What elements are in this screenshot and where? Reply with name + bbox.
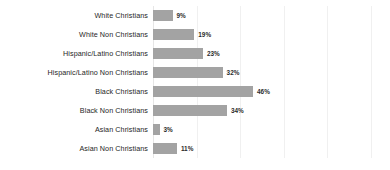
bar xyxy=(153,67,223,78)
bar-row: Hispanic/Latino Non Christians32% xyxy=(0,63,390,82)
bar-row: Asian Non Christians11% xyxy=(0,139,390,158)
bar-value-label: 9% xyxy=(177,12,186,20)
bar-value-label: 3% xyxy=(164,126,173,134)
category-label: White Christians xyxy=(0,11,148,20)
bar xyxy=(153,124,160,135)
bar-track: 3% xyxy=(153,124,390,135)
bar-chart: White Christians9%White Non Christians19… xyxy=(0,0,390,170)
bar-track: 32% xyxy=(153,67,390,78)
bar-value-label: 11% xyxy=(181,145,193,153)
bar-track: 19% xyxy=(153,29,390,40)
category-label: Hispanic/Latino Non Christians xyxy=(0,68,148,77)
bar-track: 9% xyxy=(153,10,390,21)
bar xyxy=(153,10,173,21)
bar-track: 46% xyxy=(153,86,390,97)
bar-row: White Christians9% xyxy=(0,6,390,25)
bar-row: Black Non Christians34% xyxy=(0,101,390,120)
bar-row: Asian Christians3% xyxy=(0,120,390,139)
bar-value-label: 32% xyxy=(227,69,240,77)
bar-row: Black Christians46% xyxy=(0,82,390,101)
category-label: Black Christians xyxy=(0,87,148,96)
bar xyxy=(153,86,253,97)
category-label: Black Non Christians xyxy=(0,106,148,115)
category-label: Asian Christians xyxy=(0,125,148,134)
bar-rows: White Christians9%White Non Christians19… xyxy=(0,6,390,158)
bar-value-label: 23% xyxy=(207,50,220,58)
bar-value-label: 34% xyxy=(231,107,244,115)
bar xyxy=(153,29,194,40)
category-label: Asian Non Christians xyxy=(0,144,148,153)
bar-value-label: 19% xyxy=(198,31,211,39)
bar xyxy=(153,143,177,154)
bar-track: 11% xyxy=(153,143,390,154)
bar xyxy=(153,48,203,59)
bar-value-label: 46% xyxy=(257,88,270,96)
category-label: White Non Christians xyxy=(0,30,148,39)
bar-track: 23% xyxy=(153,48,390,59)
bar-track: 34% xyxy=(153,105,390,116)
bar-row: White Non Christians19% xyxy=(0,25,390,44)
bar-row: Hispanic/Latino Christians23% xyxy=(0,44,390,63)
bar xyxy=(153,105,227,116)
category-label: Hispanic/Latino Christians xyxy=(0,49,148,58)
